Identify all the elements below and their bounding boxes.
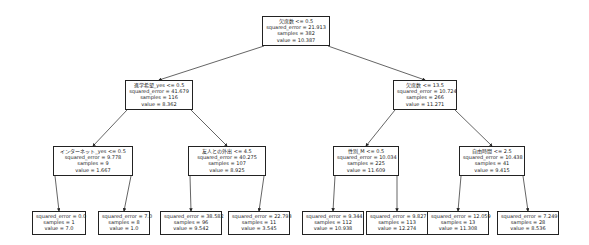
node-value: value = 11.609 [337, 167, 395, 173]
split-node: 欠席数 <= 13.5squared_error = 10.724samples… [393, 80, 457, 110]
leaf-node: squared_error = 22.793samples = 11value … [228, 211, 290, 235]
split-node: 友人との外出 <= 4.5squared_error = 40.275sampl… [188, 146, 266, 176]
node-value: value = 9.415 [463, 167, 521, 173]
split-node: 欠席数 <= 0.5squared_error = 21.913samples … [262, 16, 330, 46]
tree-edge [366, 110, 395, 146]
tree-edge [190, 176, 191, 211]
node-value: value = 1.667 [57, 167, 129, 173]
decision-tree-diagram: 欠席数 <= 0.5squared_error = 21.913samples … [0, 0, 589, 245]
tree-edge [458, 176, 461, 211]
node-value: value = 7.0 [36, 225, 82, 231]
split-node: インターネット_yes <= 0.5squared_error = 9.778s… [53, 146, 133, 176]
leaf-node: squared_error = 12.059samples = 13value … [427, 211, 489, 235]
node-value: value = 10.387 [266, 37, 326, 43]
tree-edge [328, 46, 425, 80]
node-value: value = 8.925 [192, 167, 262, 173]
node-value: value = 3.545 [232, 225, 286, 231]
tree-edge [333, 176, 335, 211]
node-value: value = 9.542 [164, 225, 218, 231]
tree-edge [455, 110, 492, 146]
tree-edge [93, 110, 127, 146]
node-value: value = 8.536 [501, 225, 555, 231]
leaf-node: squared_error = 38.582samples = 96value … [160, 211, 222, 235]
split-node: 自由時間 <= 2.5squared_error = 10.438samples… [459, 146, 525, 176]
node-value: value = 10.938 [306, 225, 360, 231]
node-value: value = 11.271 [397, 101, 453, 107]
leaf-node: squared_error = 9.827samples = 113value … [366, 211, 428, 235]
leaf-node: squared_error = 7.249samples = 28value =… [497, 211, 559, 235]
tree-edge [55, 176, 59, 211]
tree-edge [124, 176, 131, 211]
node-value: value = 11.308 [431, 225, 485, 231]
tree-edge [523, 176, 528, 211]
leaf-node: squared_error = 9.344samples = 112value … [302, 211, 364, 235]
node-value: value = 1.0 [102, 225, 146, 231]
split-node: 進学希望_yes <= 0.5squared_error = 41.679sam… [125, 80, 193, 110]
tree-edge [259, 176, 264, 211]
tree-edge [159, 46, 264, 80]
node-value: value = 12.274 [370, 225, 424, 231]
split-node: 性別_M <= 0.5squared_error = 10.034samples… [333, 146, 399, 176]
leaf-node: squared_error = 7.0samples = 8value = 1.… [98, 211, 150, 235]
node-value: value = 8.362 [129, 101, 189, 107]
leaf-node: squared_error = 0.0samples = 1value = 7.… [32, 211, 86, 235]
tree-edge [191, 110, 227, 146]
